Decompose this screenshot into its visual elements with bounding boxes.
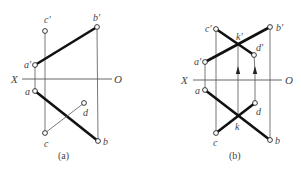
orthographic-projection-figure: a′ b′ c′ a b c d X O (a) [0,0,301,177]
label-c-prime: c′ [205,23,212,34]
point-d [82,101,87,106]
caption-a: (a) [58,150,69,162]
caption-b: (b) [229,150,241,162]
point-b [268,138,273,143]
label-x-axis-b: X [180,74,189,86]
label-d: d [83,107,89,118]
point-a-prime [33,63,38,68]
label-b: b [103,136,108,147]
figure-a: a′ b′ c′ a b c d X O (a) [10,12,122,162]
point-a [33,89,38,94]
label-c-prime: c′ [44,14,51,25]
point-a [203,88,208,93]
point-b-prime [268,25,273,30]
point-b-prime [95,25,100,30]
label-b-prime: b′ [93,12,101,23]
point-d [253,101,258,106]
label-a: a [25,86,30,97]
point-c [43,131,48,136]
arrow-up-icon [236,66,240,74]
label-x-axis-a: X [10,73,19,85]
label-k-prime: k′ [236,31,243,42]
figure-b: a′ b′ c′ d′ k′ a b c d k X O (b) [180,22,293,162]
point-d-prime [252,53,257,58]
label-o-axis-a: O [114,73,122,85]
line-cd [45,103,84,133]
label-b-prime: b′ [276,22,284,33]
label-b: b [275,135,280,146]
arrow-up-icon [253,66,257,74]
label-d: d [256,106,262,117]
label-a: a [195,85,200,96]
point-c-prime [43,29,48,34]
label-c: c [213,137,218,148]
label-o-axis-b: O [285,74,293,86]
line-c-prime-d-prime [216,29,254,55]
label-d-prime: d′ [256,42,264,53]
label-a-prime: a′ [24,59,32,70]
point-a-prime [203,60,208,65]
point-c [214,131,219,136]
point-c-prime [214,27,219,32]
label-k: k [235,121,240,132]
label-a-prime: a′ [194,56,202,67]
label-c: c [44,138,49,149]
point-b [96,139,101,144]
projection-line-b [97,27,98,141]
